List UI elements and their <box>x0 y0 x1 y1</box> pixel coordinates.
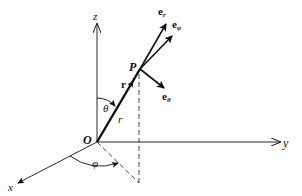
e-theta-label: eθ <box>162 90 171 104</box>
origin-label: O <box>83 133 92 147</box>
radius-label: r <box>118 113 123 125</box>
x-axis-label: x <box>7 181 13 193</box>
x-axis <box>18 142 97 183</box>
y-axis-label: y <box>282 136 289 150</box>
spherical-coordinates-diagram: z y x O P r r θ φ er eφ eθ <box>0 0 302 196</box>
theta-label: θ <box>103 102 109 114</box>
point-p-label: P <box>129 60 137 74</box>
e-phi-label: eφ <box>172 18 181 32</box>
e-theta-vector <box>140 69 164 88</box>
z-axis-label: z <box>92 10 98 22</box>
phi-label: φ <box>92 157 98 169</box>
projection-line-horizontal <box>97 142 139 183</box>
position-vector-label: r <box>121 78 126 90</box>
e-r-label: er <box>158 5 166 19</box>
r-arrow-mark <box>128 81 133 90</box>
